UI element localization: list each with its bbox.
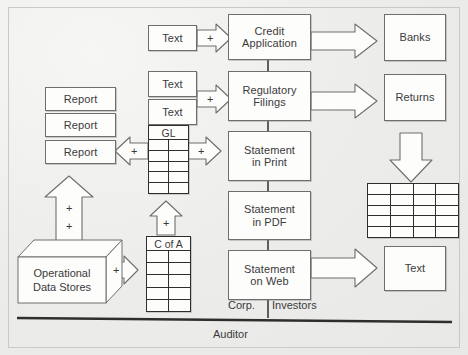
table-cell: [149, 172, 169, 182]
table-cell: [169, 288, 190, 299]
table-cell: [169, 172, 188, 182]
table-row: [147, 288, 190, 300]
node-credit-application[interactable]: Credit Application: [228, 14, 311, 60]
table-cell: [149, 151, 169, 161]
node-statement-on-web[interactable]: Statement on Web: [228, 250, 311, 300]
arrow-gl-to-statement-in-print: [188, 137, 221, 165]
table-row: [147, 300, 190, 311]
node-label: Text: [162, 78, 183, 91]
table-cell: [436, 184, 458, 194]
node-label-line2: on Web: [250, 275, 288, 288]
plus-c-of-a-up: +: [163, 218, 169, 229]
table-cell: [368, 227, 391, 237]
table-cell: [147, 300, 169, 311]
node-label: Text: [162, 32, 183, 45]
table-grid[interactable]: [367, 183, 459, 238]
table-cell: [368, 184, 391, 194]
node-banks[interactable]: Banks: [384, 14, 446, 61]
node-label-line2: Data Stores: [33, 280, 91, 294]
plus-report-up-1: +: [66, 203, 72, 214]
node-statement-in-print[interactable]: Statement in Print: [228, 131, 311, 181]
swimlane-label-auditor: Auditor: [213, 328, 248, 340]
table-gl[interactable]: GL: [148, 125, 189, 194]
table-cell: [169, 275, 190, 286]
table-cell: [169, 140, 188, 150]
node-label-line2: Filings: [253, 96, 286, 109]
plus-report-up-2: +: [66, 221, 72, 232]
node-label: Text: [162, 106, 183, 119]
node-operational-data-stores[interactable]: Operational Data Stores: [17, 239, 123, 304]
table-cell: [391, 216, 414, 226]
swimlane-label-investors: Investors: [272, 299, 317, 311]
table-cell: [169, 263, 190, 274]
table-cell: [149, 183, 169, 193]
node-returns[interactable]: Returns: [384, 74, 446, 121]
node-label: Banks: [399, 31, 430, 44]
node-label-line2: in PDF: [252, 216, 286, 229]
table-gl-body: [149, 140, 188, 193]
table-row: [149, 151, 188, 162]
node-text-regulatory-1[interactable]: Text: [148, 71, 197, 97]
node-report-3[interactable]: Report: [45, 140, 116, 164]
table-cell: [414, 184, 437, 194]
table-row: [149, 162, 188, 173]
node-label: Text: [405, 262, 426, 275]
table-cell: [147, 251, 169, 262]
table-grid-body: [368, 184, 458, 237]
node-label: Report: [64, 119, 98, 132]
plus-gl-right: +: [198, 146, 204, 157]
table-cell: [368, 206, 391, 216]
table-cell: [436, 227, 458, 237]
node-label-line2: Application: [242, 37, 297, 50]
table-cell: [436, 206, 458, 216]
table-cell: [391, 195, 414, 205]
swimlane-divider: [17, 318, 452, 322]
table-cell: [414, 227, 437, 237]
plus-regulatory: +: [207, 94, 213, 105]
table-row: [147, 275, 190, 287]
table-cell: [147, 288, 169, 299]
table-cell: [414, 195, 437, 205]
table-cell: [436, 195, 458, 205]
node-regulatory-filings[interactable]: Regulatory Filings: [228, 71, 311, 121]
plus-gl-left: +: [131, 146, 137, 157]
table-cell: [368, 195, 391, 205]
table-cell: [169, 183, 188, 193]
node-label-line1: Operational: [34, 266, 91, 280]
table-cell: [169, 300, 190, 311]
table-row: [147, 251, 190, 263]
table-cell: [147, 263, 169, 274]
table-cell: [147, 275, 169, 286]
table-row: [149, 172, 188, 183]
node-text-credit[interactable]: Text: [148, 25, 197, 51]
arrow-credit-application-to-banks: [311, 24, 377, 58]
table-c-of-a[interactable]: C of A: [146, 236, 191, 312]
arrow-returns-to-grid-table: [390, 133, 432, 182]
table-c-of-a-header: C of A: [147, 237, 190, 251]
table-cell: [391, 206, 414, 216]
node-report-2[interactable]: Report: [45, 113, 116, 137]
arrow-text-to-regulatory-filings: [197, 85, 231, 113]
arrow-regulatory-filings-to-returns: [311, 84, 377, 118]
table-row: [368, 227, 458, 237]
plus-credit: +: [207, 33, 213, 44]
plus-ods-right: +: [113, 265, 119, 276]
node-report-1[interactable]: Report: [45, 87, 116, 111]
table-cell: [149, 162, 169, 172]
table-row: [147, 263, 190, 275]
table-row: [368, 195, 458, 206]
node-label-line2: in Print: [252, 156, 287, 169]
node-text-regulatory-2[interactable]: Text: [148, 99, 197, 125]
table-cell: [149, 140, 169, 150]
table-cell: [436, 216, 458, 226]
table-cell: [414, 216, 437, 226]
node-label-line1: Statement: [244, 144, 295, 157]
node-label-line1: Regulatory: [242, 84, 296, 97]
node-label-line1: Credit: [255, 25, 285, 38]
node-label: Report: [64, 146, 98, 159]
node-text-web[interactable]: Text: [384, 246, 446, 291]
table-cell: [391, 227, 414, 237]
node-statement-in-pdf[interactable]: Statement in PDF: [228, 191, 311, 240]
swimlane-label-corp: Corp.: [228, 299, 255, 311]
table-row: [149, 140, 188, 151]
